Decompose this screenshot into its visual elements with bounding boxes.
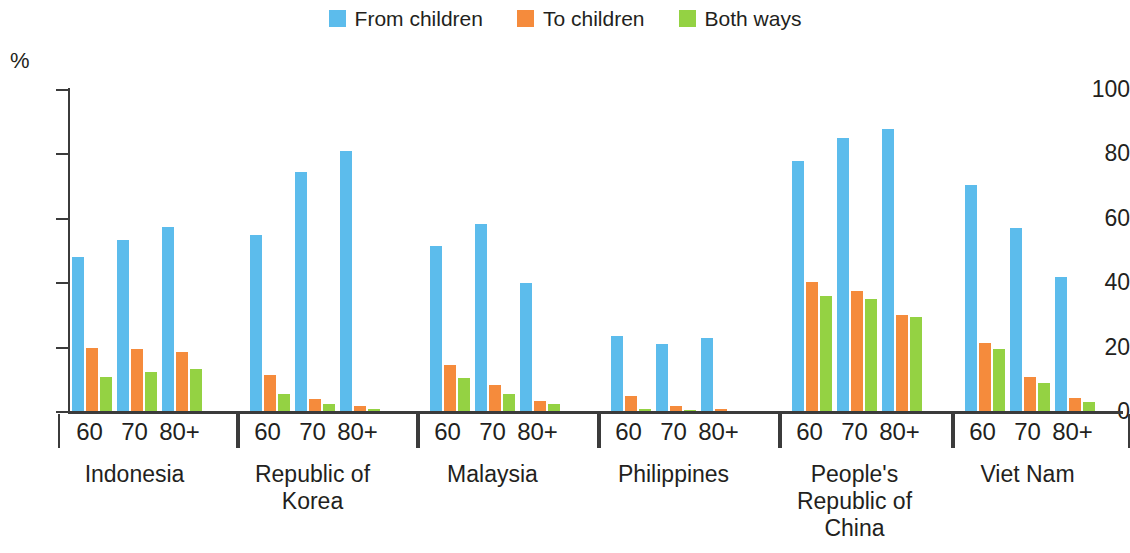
bar	[444, 365, 456, 412]
bar-cluster	[475, 90, 517, 412]
bar	[1069, 398, 1081, 412]
y-axis-tick	[56, 411, 68, 413]
bar-cluster	[1010, 90, 1052, 412]
age-tick-label: 70	[1005, 419, 1050, 445]
age-tick-labels: 607080+	[955, 419, 1100, 445]
bar	[340, 151, 352, 412]
bar-cluster	[340, 90, 382, 412]
legend-item: From children	[329, 8, 483, 29]
bar-group	[965, 90, 1100, 412]
group-separator-tick	[778, 414, 780, 448]
bar	[792, 161, 804, 412]
age-tick-label: 60	[425, 419, 470, 445]
bar-group	[72, 90, 207, 412]
country-label: Republic ofKorea	[210, 461, 415, 515]
bar	[865, 299, 877, 412]
country-label-line: Indonesia	[32, 461, 237, 488]
bar	[489, 385, 501, 412]
bar-cluster	[837, 90, 879, 412]
bar	[851, 291, 863, 412]
bar	[993, 349, 1005, 412]
age-tick-label: 70	[651, 419, 696, 445]
bar	[503, 394, 515, 412]
bar-cluster	[520, 90, 562, 412]
y-axis-tick	[56, 282, 68, 284]
bar-group	[611, 90, 746, 412]
legend-item: Both ways	[679, 8, 802, 29]
bar	[611, 336, 623, 412]
age-tick-label: 60	[787, 419, 832, 445]
age-tick-label: 80+	[877, 419, 922, 445]
group-separator-tick	[951, 414, 953, 448]
age-tick-label: 80+	[157, 419, 202, 445]
bar-cluster	[656, 90, 698, 412]
bar	[131, 349, 143, 412]
bar	[656, 344, 668, 412]
age-tick-label: 60	[606, 419, 651, 445]
country-label: Philippines	[571, 461, 776, 488]
age-tick-label: 60	[67, 419, 112, 445]
bar	[100, 377, 112, 412]
country-label-line: Philippines	[571, 461, 776, 488]
y-axis-unit-label: %	[10, 50, 30, 72]
bar	[701, 338, 713, 412]
age-tick-labels: 607080+	[782, 419, 927, 445]
age-tick-label: 80+	[515, 419, 560, 445]
bar-cluster	[701, 90, 743, 412]
age-tick-label: 70	[290, 419, 335, 445]
bar	[278, 394, 290, 412]
bar-cluster	[430, 90, 472, 412]
age-tick-label: 70	[832, 419, 877, 445]
age-tick-label: 70	[112, 419, 157, 445]
bar	[910, 317, 922, 412]
bar	[1010, 228, 1022, 412]
bar	[295, 172, 307, 412]
bar	[430, 246, 442, 412]
legend-swatch-to-children	[517, 10, 534, 27]
country-label-line: Malaysia	[390, 461, 595, 488]
bar	[86, 348, 98, 412]
bar	[475, 224, 487, 412]
bar	[190, 369, 202, 412]
bar-cluster	[117, 90, 159, 412]
bar-cluster	[295, 90, 337, 412]
y-axis-tick	[56, 153, 68, 155]
bar	[1038, 383, 1050, 412]
bar-group	[250, 90, 385, 412]
country-label: Malaysia	[390, 461, 595, 488]
country-label-line: Korea	[210, 488, 415, 515]
bar	[896, 315, 908, 412]
bar	[520, 283, 532, 412]
country-label-line: Viet Nam	[925, 461, 1130, 488]
country-label: Indonesia	[32, 461, 237, 488]
x-axis-label-band: 607080+Indonesia607080+Republic ofKorea6…	[0, 414, 1130, 553]
country-label-line: Republic of	[752, 488, 957, 515]
bar-cluster	[250, 90, 292, 412]
group-separator-tick	[236, 414, 238, 448]
bar-cluster	[965, 90, 1007, 412]
bar	[145, 372, 157, 412]
bar	[965, 185, 977, 412]
country-label-line: Republic of	[210, 461, 415, 488]
legend-item-label: From children	[355, 8, 483, 29]
bar	[625, 396, 637, 412]
group-separator-tick	[58, 414, 60, 448]
bar	[117, 240, 129, 412]
bar	[1024, 377, 1036, 412]
bar	[250, 235, 262, 412]
bar	[176, 352, 188, 412]
country-label-line: China	[752, 515, 957, 542]
legend-item-label: Both ways	[705, 8, 802, 29]
plot-area	[68, 90, 1120, 412]
bar	[1055, 277, 1067, 412]
age-tick-labels: 607080+	[240, 419, 385, 445]
age-tick-labels: 607080+	[601, 419, 746, 445]
bar-cluster	[792, 90, 834, 412]
age-tick-labels: 607080+	[420, 419, 565, 445]
chart-legend: From childrenTo childrenBoth ways	[0, 8, 1130, 29]
bar	[837, 138, 849, 412]
bar-cluster	[162, 90, 204, 412]
legend-swatch-from-children	[329, 10, 346, 27]
bar-cluster	[882, 90, 924, 412]
bar-cluster	[72, 90, 114, 412]
